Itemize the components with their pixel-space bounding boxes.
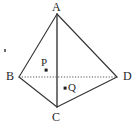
- point-label-p: P: [41, 57, 47, 68]
- point-q-dot: [64, 87, 67, 90]
- edge-ad: [57, 14, 117, 77]
- vertex-label-c: C: [52, 111, 60, 123]
- tetrahedron-figure: A B C D P Q: [0, 0, 138, 127]
- vertex-label-d: D: [123, 70, 132, 82]
- point-label-q: Q: [68, 82, 76, 93]
- edge-ab: [19, 14, 57, 77]
- edge-cd: [57, 77, 117, 107]
- tetrahedron-svg: [0, 0, 138, 127]
- edge-bc: [19, 77, 57, 107]
- stray-mark: [4, 49, 6, 52]
- vertex-label-b: B: [6, 70, 14, 82]
- point-p-dot: [45, 69, 48, 72]
- vertex-label-a: A: [52, 1, 61, 13]
